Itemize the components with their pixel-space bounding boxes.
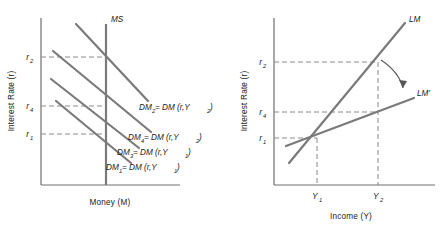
ytick-r2: r 2 [259,57,267,69]
svg-text:): ) [209,103,213,112]
svg-text:): ) [187,148,191,157]
curve-lm-prime [286,98,414,146]
svg-text:DM: DM [139,103,152,112]
svg-text:= DM (r,Y: = DM (r,Y [122,163,157,172]
x-axis-title: Income (Y) [330,212,372,221]
x-axis-title: Money (M) [90,198,131,207]
ms-label: MS [111,15,124,24]
svg-text:2: 2 [262,63,267,69]
curve-dm3 [51,79,139,148]
curve-label-dm3: DM 3 = DM (r,Y 1 ) [117,148,191,159]
curve-lm [289,23,405,163]
svg-text:): ) [176,163,180,172]
y-axis-title: Interest Rate (r) [240,71,249,132]
ytick-r1: r 1 [259,133,266,145]
y-axis-title: Interest Rate (r) [7,71,16,132]
ytick-r4: r 4 [26,101,33,113]
svg-text:DM: DM [117,148,130,157]
rotation-arrow-head [399,80,407,88]
svg-text:1: 1 [263,139,266,145]
svg-text:2: 2 [379,197,384,203]
ytick-r4: r 4 [259,107,266,119]
svg-text:= DM (r,Y: = DM (r,Y [133,148,168,157]
svg-text:2: 2 [29,58,34,64]
svg-text:DM: DM [128,133,141,142]
svg-text:1: 1 [30,135,33,141]
xtick-y2: Y 2 [373,191,384,203]
ytick-r2: r 2 [26,52,34,64]
svg-text:): ) [198,133,202,142]
curve-dm2 [76,24,148,101]
curve-label-dm2: DM 2 = DM (r,Y 2 ) [139,103,213,114]
panel-lm-curve: LM LM' r 2 r 4 r 1 Y 1 Y 2 [223,0,446,228]
curve-label-lm: LM [409,15,421,24]
svg-text:Y: Y [373,191,380,201]
svg-text:4: 4 [263,113,266,119]
ytick-r1: r 1 [26,129,33,141]
figure-money-market-and-lm: MS r 2 r 4 r 1 DM 2 = DM (r,Y 2 ) [0,0,446,228]
rotation-arrow [381,60,403,88]
svg-text:1: 1 [319,197,322,203]
svg-text:= DM (r,Y: = DM (r,Y [144,133,179,142]
curve-label-lm-prime: LM' [417,89,430,98]
svg-text:= DM (r,Y: = DM (r,Y [155,103,190,112]
curve-label-dm4: DM 4 = DM (r,Y 2 ) [128,133,202,144]
svg-text:Y: Y [312,191,319,201]
xtick-y1: Y 1 [312,191,322,203]
curve-label-dm1: DM 1 = DM (r,Y 1 ) [106,163,180,174]
svg-text:DM: DM [106,163,119,172]
svg-text:4: 4 [30,107,33,113]
panel-money-market: MS r 2 r 4 r 1 DM 2 = DM (r,Y 2 ) [0,0,223,228]
